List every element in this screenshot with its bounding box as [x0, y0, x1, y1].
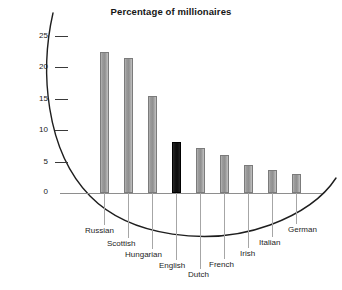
leader-line-italian	[272, 193, 273, 237]
leader-line-hungarian	[152, 193, 153, 249]
leader-line-dutch	[200, 193, 201, 269]
x-label-german: German	[288, 225, 317, 234]
y-tick-label-15: 15	[22, 94, 48, 103]
x-label-french: French	[209, 260, 234, 269]
x-label-dutch: Dutch	[188, 270, 209, 279]
bar-scottish[interactable]	[124, 58, 133, 193]
x-label-scottish: Scottish	[107, 239, 135, 248]
leader-line-russian	[104, 193, 105, 225]
bar-german[interactable]	[292, 174, 301, 193]
x-label-russian: Russian	[85, 226, 114, 235]
bar-russian[interactable]	[100, 52, 109, 193]
y-tick-25	[55, 36, 68, 37]
y-tick-label-25: 25	[22, 31, 48, 40]
bar-dutch[interactable]	[196, 148, 205, 193]
x-axis-baseline	[60, 193, 322, 194]
bar-french[interactable]	[220, 155, 229, 193]
bar-irish[interactable]	[244, 165, 253, 193]
leader-line-scottish	[128, 193, 129, 238]
y-tick-label-20: 20	[22, 62, 48, 71]
leader-line-irish	[248, 193, 249, 248]
y-tick-label-0: 0	[22, 187, 48, 196]
bar-hungarian[interactable]	[148, 96, 157, 193]
leader-line-english	[176, 193, 177, 260]
y-tick-10	[55, 130, 68, 131]
x-label-italian: Italian	[259, 238, 280, 247]
y-tick-20	[55, 67, 68, 68]
y-tick-5	[55, 162, 68, 163]
decorative-arc	[0, 0, 342, 290]
bar-english[interactable]	[172, 142, 181, 193]
leader-line-german	[296, 193, 297, 224]
x-label-irish: Irish	[240, 249, 255, 258]
plot-area: 25 20 15 10 5 0 Russian Scot	[0, 0, 342, 290]
y-tick-label-5: 5	[22, 157, 48, 166]
y-tick-label-10: 10	[22, 125, 48, 134]
chart-figure: Percentage of millionaires 25 20 15 10 5…	[0, 0, 342, 290]
leader-line-french	[224, 193, 225, 259]
x-label-hungarian: Hungarian	[125, 250, 162, 259]
x-label-english: English	[159, 261, 185, 270]
bar-italian[interactable]	[268, 170, 277, 193]
y-tick-15	[55, 99, 68, 100]
